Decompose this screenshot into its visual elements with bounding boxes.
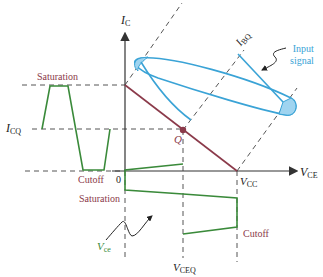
input-signal-label: Inputsignal bbox=[290, 44, 314, 66]
input-signal-pointer bbox=[262, 48, 286, 70]
vce-pointer bbox=[106, 216, 152, 240]
diagonal-dashed-left bbox=[125, 3, 182, 85]
origin-label: 0 bbox=[116, 175, 121, 185]
ic-output-waveform bbox=[42, 86, 110, 170]
saturation-label-left: Saturation bbox=[37, 72, 78, 82]
cutoff-label-left: Cutoff bbox=[78, 175, 104, 185]
dashed-guides bbox=[22, 3, 297, 262]
load-line-diagram bbox=[0, 0, 323, 277]
input-signal-ellipse bbox=[135, 58, 296, 115]
vceq-label: VCEQ bbox=[173, 262, 196, 275]
vce-label: Vce bbox=[97, 241, 111, 254]
ibq-dashed-line bbox=[183, 50, 244, 130]
y-axis-label: IC bbox=[121, 14, 130, 28]
cutoff-label-bottom: Cutoff bbox=[243, 229, 269, 239]
q-point-label: Q bbox=[174, 134, 182, 145]
icq-label: ICQ bbox=[6, 122, 21, 136]
vce-output-waveform bbox=[125, 164, 237, 234]
input-signal-inner-left bbox=[141, 62, 191, 120]
x-axis-label: VCE bbox=[300, 166, 318, 180]
vcc-label: VCC bbox=[240, 176, 257, 189]
saturation-label-bottom: Saturation bbox=[79, 194, 120, 204]
